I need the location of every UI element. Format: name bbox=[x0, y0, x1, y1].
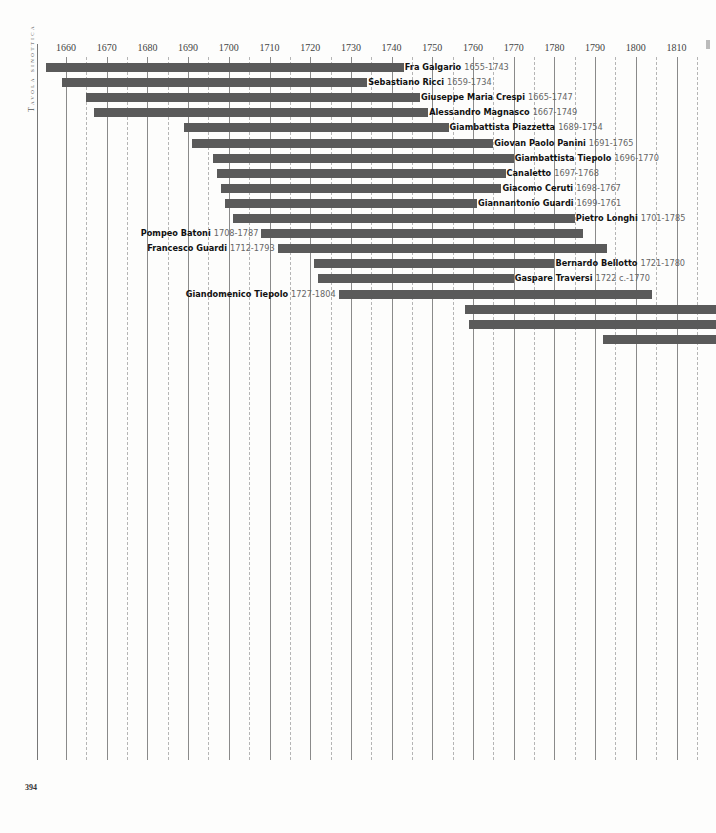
timeline-bar bbox=[62, 78, 367, 87]
minor-gridline bbox=[127, 57, 128, 760]
artist-dates: 1699-1761 bbox=[577, 198, 622, 208]
minor-gridline bbox=[168, 57, 169, 760]
timeline-bar bbox=[217, 169, 506, 178]
timeline-bar bbox=[192, 139, 493, 148]
artist-name: Alessandro Magnasco bbox=[429, 107, 529, 117]
artist-dates: 1701-1785 bbox=[641, 213, 686, 223]
artist-label: Bernardo Bellotto1721-1780 bbox=[555, 259, 685, 268]
artist-label: Pietro Longhi1701-1785 bbox=[576, 214, 686, 223]
artist-dates: 1659-1734 bbox=[447, 77, 492, 87]
x-tick-label: 1760 bbox=[453, 42, 493, 53]
x-tick-label: 1810 bbox=[657, 42, 697, 53]
artist-dates: 1689-1754 bbox=[558, 122, 603, 132]
timeline-bar bbox=[339, 290, 652, 299]
artist-dates: 1727-1804 bbox=[291, 289, 336, 299]
timeline-bar bbox=[314, 259, 554, 268]
artist-dates: 1655-1743 bbox=[464, 62, 509, 72]
artist-label: Alessandro Magnasco1667-1749 bbox=[429, 108, 577, 117]
timeline-bar bbox=[318, 274, 513, 283]
artist-label: Giannantonio Guardi1699-1761 bbox=[478, 199, 621, 208]
timeline-bar bbox=[261, 229, 583, 238]
edge-mark bbox=[706, 40, 710, 49]
artist-name: Pietro Longhi bbox=[576, 213, 638, 223]
artist-name: Giovan Paolo Panini bbox=[494, 138, 585, 148]
x-tick-label: 1790 bbox=[575, 42, 615, 53]
artist-name: Gaspare Traversi bbox=[515, 273, 593, 283]
artist-dates: 1721-1780 bbox=[640, 258, 685, 268]
major-gridline bbox=[677, 57, 678, 760]
artist-name: Pompeo Batoni bbox=[141, 228, 211, 238]
minor-gridline bbox=[697, 57, 698, 760]
timeline-bar bbox=[603, 335, 716, 344]
artist-name: Giacomo Ceruti bbox=[502, 183, 573, 193]
x-tick-label: 1800 bbox=[616, 42, 656, 53]
artist-label: Canaletto1697-1768 bbox=[507, 169, 599, 178]
artist-dates: 1667-1749 bbox=[533, 107, 578, 117]
artist-dates: 1691-1765 bbox=[589, 138, 634, 148]
timeline-bar bbox=[213, 154, 514, 163]
artist-dates: 1708-1787 bbox=[214, 228, 259, 238]
artist-name: Canaletto bbox=[507, 168, 552, 178]
left-axis-line bbox=[37, 44, 38, 760]
x-tick-label: 1690 bbox=[168, 42, 208, 53]
timeline-bar bbox=[469, 320, 716, 329]
major-gridline bbox=[147, 57, 148, 760]
artist-name: Giandomenico Tiepolo bbox=[186, 289, 288, 299]
artist-name: Francesco Guardi bbox=[147, 243, 227, 253]
page-number: 394 bbox=[25, 783, 37, 792]
artist-dates: 1696-1770 bbox=[614, 153, 659, 163]
artist-name: Giambattista Tiepolo bbox=[515, 153, 612, 163]
artist-label: Gaspare Traversi1722 c.-1770 bbox=[515, 274, 650, 283]
timeline-bar bbox=[221, 184, 502, 193]
x-tick-label: 1720 bbox=[290, 42, 330, 53]
timeline-bar bbox=[94, 108, 428, 117]
timeline-bar bbox=[46, 63, 404, 72]
artist-label: Giambattista Tiepolo1696-1770 bbox=[515, 154, 659, 163]
x-tick-label: 1670 bbox=[87, 42, 127, 53]
artist-label: Giandomenico Tiepolo1727-1804 bbox=[186, 290, 336, 299]
x-tick-label: 1710 bbox=[250, 42, 290, 53]
artist-label: Pompeo Batoni1708-1787 bbox=[141, 229, 259, 238]
artist-dates: 1698-1767 bbox=[576, 183, 621, 193]
timeline-bar bbox=[278, 244, 608, 253]
timeline-bar bbox=[225, 199, 477, 208]
x-tick-label: 1730 bbox=[331, 42, 371, 53]
artist-label: Giuseppe Maria Crespi1665-1747 bbox=[421, 93, 573, 102]
artist-label: Francesco Guardi1712-1793 bbox=[147, 244, 275, 253]
artist-name: Giambattista Piazzetta bbox=[450, 122, 556, 132]
artist-dates: 1665-1747 bbox=[528, 92, 573, 102]
artist-dates: 1697-1768 bbox=[554, 168, 599, 178]
x-tick-label: 1750 bbox=[412, 42, 452, 53]
x-tick-label: 1700 bbox=[209, 42, 249, 53]
artist-dates: 1722 c.-1770 bbox=[596, 273, 650, 283]
artist-label: Giacomo Ceruti1698-1767 bbox=[502, 184, 620, 193]
timeline-bar bbox=[233, 214, 575, 223]
artist-dates: 1712-1793 bbox=[230, 243, 275, 253]
artist-label: Sebastiano Ricci1659-1734 bbox=[368, 78, 492, 87]
major-gridline bbox=[188, 57, 189, 760]
artist-name: Bernardo Bellotto bbox=[555, 258, 637, 268]
artist-name: Fra Galgario bbox=[405, 62, 461, 72]
major-gridline bbox=[107, 57, 108, 760]
artist-name: Sebastiano Ricci bbox=[368, 77, 444, 87]
artist-label: Giovan Paolo Panini1691-1765 bbox=[494, 139, 633, 148]
artist-label: Giambattista Piazzetta1689-1754 bbox=[450, 123, 603, 132]
x-tick-label: 1680 bbox=[127, 42, 167, 53]
timeline-bar bbox=[465, 305, 716, 314]
artist-label: Fra Galgario1655-1743 bbox=[405, 63, 509, 72]
x-tick-label: 1770 bbox=[494, 42, 534, 53]
timeline-bar bbox=[86, 93, 420, 102]
minor-gridline bbox=[86, 57, 87, 760]
x-tick-label: 1740 bbox=[372, 42, 412, 53]
artist-name: Giannantonio Guardi bbox=[478, 198, 574, 208]
side-title: Tavola sinottica bbox=[27, 24, 36, 112]
minor-gridline bbox=[208, 57, 209, 760]
x-tick-label: 1780 bbox=[534, 42, 574, 53]
timeline-bar bbox=[184, 123, 449, 132]
x-tick-label: 1660 bbox=[46, 42, 86, 53]
major-gridline bbox=[66, 57, 67, 760]
artist-name: Giuseppe Maria Crespi bbox=[421, 92, 525, 102]
